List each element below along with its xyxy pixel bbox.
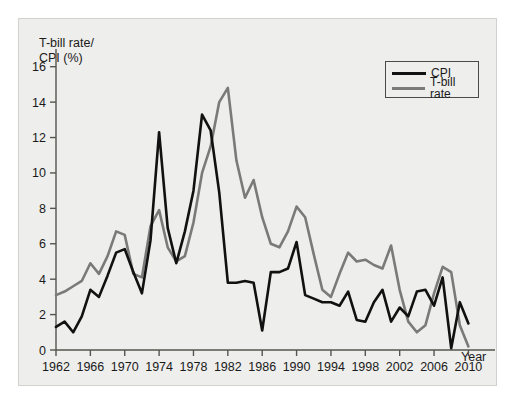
- x-tick-label: 2002: [386, 360, 414, 374]
- legend-item-t-bill-rate: T-bill rate: [392, 81, 478, 95]
- x-tick-label: 1998: [351, 360, 379, 374]
- x-axis-ticks: 1962196619701974197819821986199019941998…: [42, 350, 482, 374]
- y-tick-label: 10: [32, 166, 46, 180]
- legend-swatch-t-bill-rate: [392, 87, 425, 90]
- figure-panel: T-bill rate/ CPI (%) Year 0246810121416 …: [18, 18, 497, 386]
- y-tick-label: 12: [32, 131, 46, 145]
- x-tick-label: 2006: [420, 360, 448, 374]
- legend-label-t-bill-rate: T-bill rate: [430, 76, 478, 100]
- x-tick-label: 1970: [111, 360, 139, 374]
- x-tick-label: 1982: [214, 360, 242, 374]
- y-tick-label: 8: [39, 202, 46, 216]
- x-tick-label: 1978: [180, 360, 208, 374]
- x-tick-label: 1962: [42, 360, 70, 374]
- y-tick-label: 4: [39, 273, 46, 287]
- legend: CPI T-bill rate: [385, 61, 479, 98]
- y-tick-label: 0: [39, 344, 46, 358]
- y-tick-label: 2: [39, 308, 46, 322]
- x-tick-label: 1974: [145, 360, 173, 374]
- x-tick-label: 1990: [283, 360, 311, 374]
- y-axis-ticks: 0246810121416: [32, 60, 56, 357]
- y-tick-label: 14: [32, 96, 46, 110]
- legend-swatch-cpi: [392, 72, 426, 75]
- y-tick-label: 16: [32, 60, 46, 74]
- y-tick-label: 6: [39, 237, 46, 251]
- x-tick-label: 1994: [317, 360, 345, 374]
- x-tick-label: 2010: [455, 360, 483, 374]
- x-tick-label: 1966: [76, 360, 104, 374]
- x-tick-label: 1986: [248, 360, 276, 374]
- series-line-t-bill-rate: [56, 88, 468, 347]
